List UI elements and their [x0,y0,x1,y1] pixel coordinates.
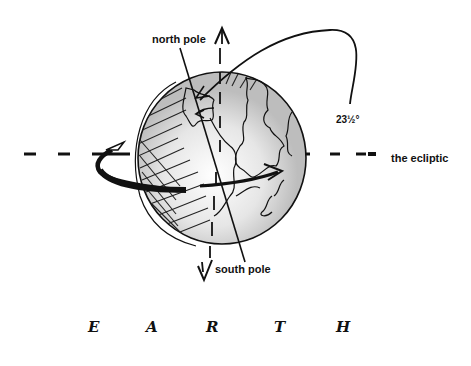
arrow-up-icon [215,28,229,44]
earth-title: E A R T H [86,318,376,348]
arrow-down-icon [198,260,212,280]
title-letter: T [274,318,285,336]
north-pole-label: north pole [152,33,206,45]
title-letter: E [88,318,99,336]
title-letter: H [336,318,350,336]
title-letter: A [146,318,158,336]
earth-tilt-diagram [0,0,471,366]
title-letter: R [206,318,218,336]
south-pole-label: south pole [215,263,271,275]
tilt-angle-label: 23½° [336,114,359,125]
ecliptic-label: the ecliptic [391,152,448,164]
